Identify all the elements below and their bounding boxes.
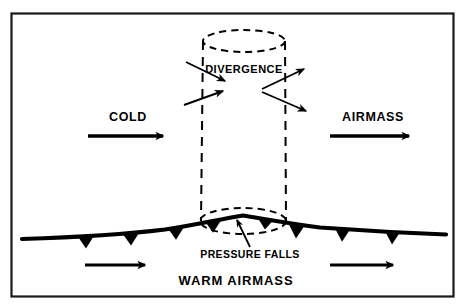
divergence-front-diagram: DIVERGENCE COLD AIRMASS PRESSURE FALLS W… xyxy=(0,0,464,305)
weather-diagram-figure: DIVERGENCE COLD AIRMASS PRESSURE FALLS W… xyxy=(0,0,464,305)
warm-airmass-label: WARM AIRMASS xyxy=(178,273,293,288)
cold-label: COLD xyxy=(109,110,147,124)
divergence-label: DIVERGENCE xyxy=(205,63,283,75)
airmass-label: AIRMASS xyxy=(342,110,404,124)
pressure-falls-label: PRESSURE FALLS xyxy=(200,248,300,260)
